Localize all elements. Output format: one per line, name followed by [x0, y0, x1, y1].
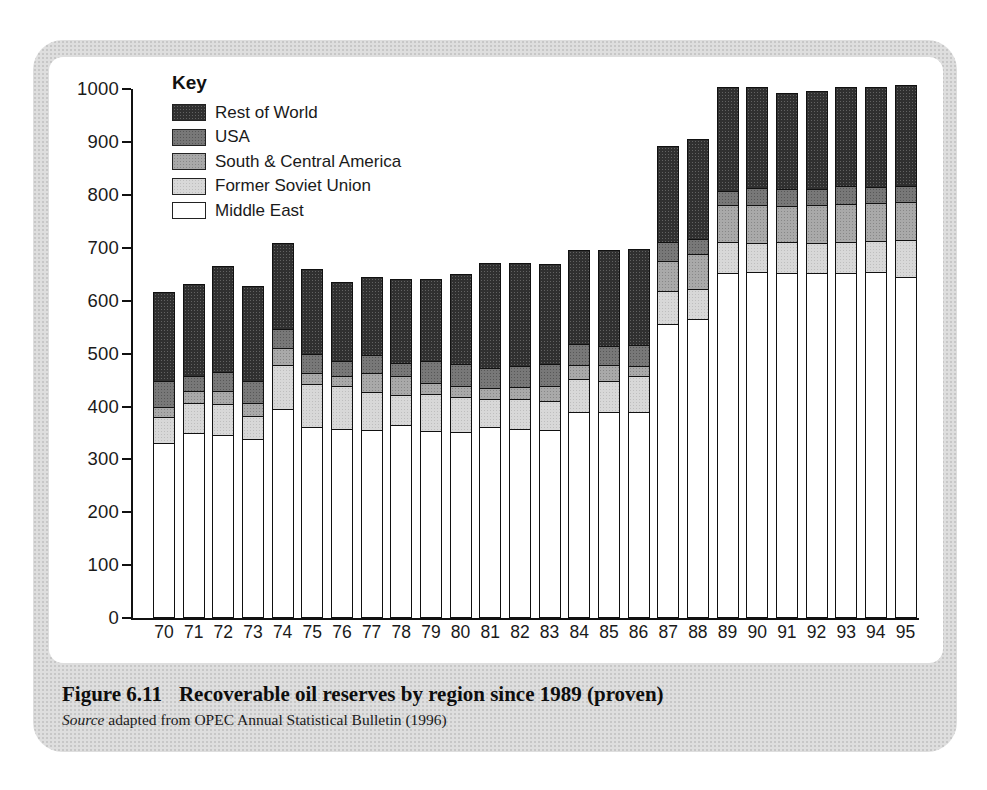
bar-77 [361, 277, 383, 618]
segment-rest-of-world [629, 250, 649, 346]
bar-89 [717, 87, 739, 618]
segment-rest-of-world [540, 265, 560, 365]
segment-rest-of-world [866, 88, 886, 188]
segment-rest-of-world [658, 147, 678, 243]
x-axis-label-82: 82 [505, 623, 535, 642]
x-axis-label-90: 90 [742, 623, 772, 642]
x-axis-label-79: 79 [416, 623, 446, 642]
segment-middle-east [421, 432, 441, 617]
segment-middle-east [569, 413, 589, 617]
segment-south-central-america [836, 205, 856, 243]
x-axis-label-86: 86 [624, 623, 654, 642]
y-axis-label-1000: 1000 [69, 79, 119, 99]
legend-label-usa: USA [215, 127, 250, 147]
legend-item-middle-east: Middle East [172, 202, 401, 219]
x-axis-label-95: 95 [891, 623, 921, 642]
segment-middle-east [451, 433, 471, 617]
bar-74 [272, 243, 294, 618]
segment-usa [599, 347, 619, 366]
segment-south-central-america [421, 384, 441, 396]
segment-usa [332, 362, 352, 378]
segment-south-central-america [332, 377, 352, 387]
segment-usa [243, 382, 263, 404]
x-axis-label-78: 78 [386, 623, 416, 642]
y-axis-label-700: 700 [69, 238, 119, 258]
segment-middle-east [629, 413, 649, 617]
segment-south-central-america [510, 388, 530, 400]
bar-71 [183, 284, 205, 618]
segment-former-soviet-union [273, 366, 293, 410]
segment-usa [896, 187, 916, 203]
y-tick-300 [122, 458, 131, 460]
segment-usa [273, 330, 293, 348]
segment-south-central-america [866, 204, 886, 242]
segment-former-soviet-union [569, 380, 589, 413]
y-axis-label-200: 200 [69, 502, 119, 522]
segment-rest-of-world [896, 86, 916, 187]
segment-south-central-america [629, 367, 649, 377]
bar-70 [153, 292, 175, 618]
segment-rest-of-world [332, 283, 352, 362]
segment-usa [213, 373, 233, 392]
segment-former-soviet-union [510, 400, 530, 430]
segment-south-central-america [718, 206, 738, 243]
segment-rest-of-world [510, 264, 530, 366]
y-axis [131, 89, 133, 620]
segment-usa [391, 364, 411, 378]
x-axis-label-93: 93 [831, 623, 861, 642]
segment-south-central-america [658, 262, 678, 292]
y-axis-label-100: 100 [69, 555, 119, 575]
segment-middle-east [391, 426, 411, 617]
segment-usa [807, 190, 827, 206]
segment-middle-east [836, 274, 856, 617]
x-axis-label-91: 91 [772, 623, 802, 642]
segment-middle-east [866, 273, 886, 617]
y-tick-400 [122, 406, 131, 408]
segment-middle-east [332, 430, 352, 617]
segment-former-soviet-union [184, 404, 204, 433]
x-axis-label-70: 70 [149, 623, 179, 642]
segment-former-soviet-union [718, 243, 738, 274]
y-tick-200 [122, 511, 131, 513]
bar-87 [657, 146, 679, 618]
segment-south-central-america [154, 408, 174, 417]
segment-usa [421, 362, 441, 384]
legend-item-usa: USA [172, 129, 401, 146]
segment-usa [836, 187, 856, 204]
segment-rest-of-world [718, 88, 738, 192]
x-axis-label-89: 89 [713, 623, 743, 642]
x-axis-label-83: 83 [535, 623, 565, 642]
segment-south-central-america [391, 377, 411, 396]
segment-south-central-america [747, 206, 767, 244]
segment-former-soviet-union [807, 244, 827, 275]
segment-former-soviet-union [688, 290, 708, 321]
segment-middle-east [213, 436, 233, 617]
y-tick-900 [122, 141, 131, 143]
segment-south-central-america [184, 392, 204, 404]
x-axis-label-72: 72 [208, 623, 238, 642]
segment-former-soviet-union [243, 417, 263, 440]
segment-rest-of-world [154, 293, 174, 382]
legend-swatch-south-central-america [172, 153, 206, 170]
segment-usa [658, 243, 678, 262]
segment-rest-of-world [421, 280, 441, 362]
y-axis-label-300: 300 [69, 449, 119, 469]
legend-swatch-rest-of-world [172, 104, 206, 121]
source-text: adapted from OPEC Annual Statistical Bul… [104, 711, 446, 728]
segment-south-central-america [243, 404, 263, 417]
segment-rest-of-world [451, 275, 471, 365]
segment-usa [747, 189, 767, 206]
segment-rest-of-world [747, 88, 767, 189]
segment-former-soviet-union [480, 400, 500, 427]
y-tick-1000 [122, 88, 131, 90]
segment-usa [569, 345, 589, 366]
segment-former-soviet-union [629, 377, 649, 413]
bar-82 [509, 263, 531, 618]
y-axis-label-0: 0 [69, 608, 119, 628]
segment-rest-of-world [480, 264, 500, 370]
segment-south-central-america [451, 387, 471, 399]
x-axis-label-73: 73 [238, 623, 268, 642]
source-line: Source adapted from OPEC Annual Statisti… [62, 711, 447, 729]
segment-former-soviet-union [599, 382, 619, 413]
segment-middle-east [777, 274, 797, 617]
